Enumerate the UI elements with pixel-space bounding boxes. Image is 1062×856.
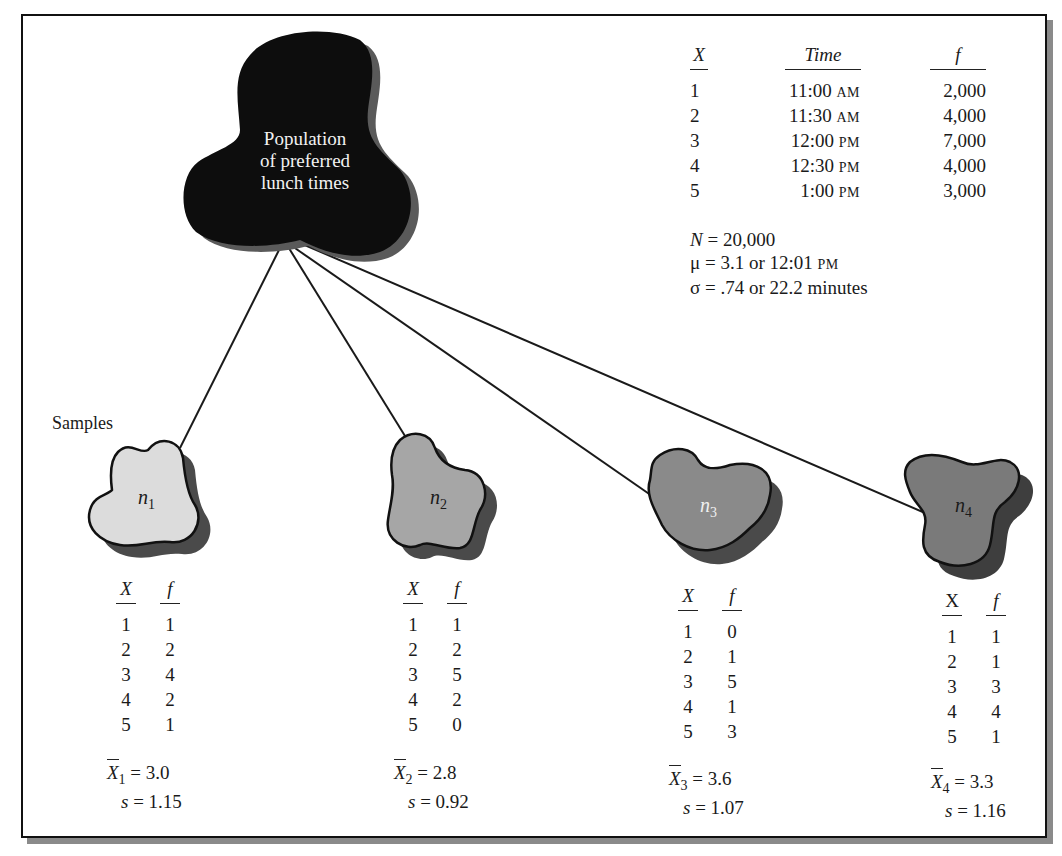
cell-x: 3 bbox=[690, 130, 712, 152]
cell-time: 1:00 PM bbox=[756, 180, 860, 202]
n-letter: n bbox=[955, 494, 965, 516]
population-mean: μ = 3.1 or 12:01 PM bbox=[690, 251, 868, 276]
header-f: f bbox=[986, 590, 1006, 616]
cell-x: 2 bbox=[678, 646, 698, 668]
cell-x: 2 bbox=[690, 105, 712, 127]
cell-x: 3 bbox=[403, 664, 423, 686]
cell-f: 2 bbox=[160, 689, 180, 711]
mu-text: μ = 3.1 or 12:01 bbox=[690, 252, 818, 273]
sd-value: = 1.15 bbox=[128, 791, 181, 812]
time-value: 12:00 bbox=[791, 130, 834, 151]
time-period: PM bbox=[839, 185, 860, 200]
cell-f: 2,000 bbox=[928, 80, 986, 102]
n-subscript: 2 bbox=[440, 497, 447, 512]
cell-x: 5 bbox=[403, 714, 423, 736]
cell-f: 4,000 bbox=[928, 105, 986, 127]
cell-x: 4 bbox=[403, 689, 423, 711]
sample-stats-n1: X1 = 3.0 s = 1.15 bbox=[107, 762, 182, 813]
xbar-symbol: X bbox=[669, 768, 681, 789]
cell-x: 2 bbox=[942, 651, 962, 673]
population-label-line: Population bbox=[248, 128, 362, 150]
time-value: 1:00 bbox=[800, 180, 834, 201]
cell-f: 1 bbox=[986, 651, 1006, 673]
sample-label-n2: n2 bbox=[430, 486, 447, 513]
mean-value: = 3.6 bbox=[688, 768, 732, 789]
cell-time: 11:00 AM bbox=[756, 80, 860, 102]
population-label: Population of preferred lunch times bbox=[248, 128, 362, 194]
time-value: 11:30 bbox=[789, 105, 832, 126]
time-value: 12:30 bbox=[791, 155, 834, 176]
cell-x: 5 bbox=[690, 180, 712, 202]
population-sd: σ = .74 or 22.2 minutes bbox=[690, 276, 868, 299]
cell-f: 0 bbox=[722, 621, 742, 643]
cell-x: 1 bbox=[116, 614, 136, 636]
cell-f: 2 bbox=[447, 689, 467, 711]
mean-value: = 2.8 bbox=[413, 762, 457, 783]
xbar-symbol: X bbox=[394, 762, 406, 783]
cell-f: 0 bbox=[447, 714, 467, 736]
mean-value: = 3.3 bbox=[950, 771, 994, 792]
cell-f: 3 bbox=[722, 721, 742, 743]
sample-label-n3: n3 bbox=[700, 494, 717, 521]
cell-f: 5 bbox=[722, 671, 742, 693]
cell-x: 1 bbox=[690, 80, 712, 102]
cell-f: 2 bbox=[447, 639, 467, 661]
cell-x: 1 bbox=[403, 614, 423, 636]
xbar-symbol: X bbox=[107, 762, 119, 783]
header-x: X bbox=[403, 578, 423, 604]
mu-period: PM bbox=[818, 257, 839, 272]
sample-sd: s = 1.15 bbox=[107, 791, 182, 813]
cell-f: 1 bbox=[986, 726, 1006, 748]
header-f: f bbox=[447, 578, 467, 604]
sample-sd: s = 1.07 bbox=[669, 797, 744, 819]
n-subscript: 1 bbox=[148, 497, 155, 512]
cell-x: 1 bbox=[942, 626, 962, 648]
sample-label-n1: n1 bbox=[138, 486, 155, 513]
header-time: Time bbox=[785, 44, 861, 70]
cell-f: 7,000 bbox=[928, 130, 986, 152]
connector-line-n1 bbox=[180, 242, 283, 448]
cell-f: 4,000 bbox=[928, 155, 986, 177]
cell-x: 3 bbox=[942, 676, 962, 698]
sample-mean: X4 = 3.3 bbox=[931, 771, 1006, 800]
sample-mean: X1 = 3.0 bbox=[107, 762, 182, 791]
header-x: X bbox=[116, 578, 136, 604]
header-x: X bbox=[942, 590, 962, 616]
cell-f: 2 bbox=[160, 639, 180, 661]
time-period: AM bbox=[836, 110, 860, 125]
population-label-line: lunch times bbox=[248, 172, 362, 194]
n-subscript: 4 bbox=[965, 505, 972, 520]
xbar-symbol: X bbox=[931, 771, 943, 792]
cell-time: 12:00 PM bbox=[756, 130, 860, 152]
sample-sd: s = 1.16 bbox=[931, 800, 1006, 822]
sample-label-n4: n4 bbox=[955, 494, 972, 521]
n-letter: n bbox=[700, 494, 710, 516]
cell-f: 5 bbox=[447, 664, 467, 686]
cell-x: 4 bbox=[942, 701, 962, 723]
mean-subscript: 2 bbox=[406, 772, 413, 787]
sd-value: = 1.16 bbox=[952, 800, 1005, 821]
header-f: f bbox=[930, 44, 986, 70]
connector-line-n2 bbox=[287, 245, 405, 436]
mean-subscript: 4 bbox=[943, 781, 950, 796]
sd-value: = 1.07 bbox=[690, 797, 743, 818]
samples-label: Samples bbox=[52, 413, 113, 434]
sample-stats-n4: X4 = 3.3 s = 1.16 bbox=[931, 771, 1006, 822]
cell-x: 5 bbox=[942, 726, 962, 748]
cell-x: 2 bbox=[403, 639, 423, 661]
n-subscript: 3 bbox=[710, 505, 717, 520]
time-period: PM bbox=[839, 135, 860, 150]
time-value: 11:00 bbox=[789, 80, 832, 101]
population-stats: N = 20,000 μ = 3.1 or 12:01 PM σ = .74 o… bbox=[690, 228, 868, 299]
header-f: f bbox=[722, 585, 742, 611]
mean-subscript: 3 bbox=[681, 778, 688, 793]
sample-mean: X3 = 3.6 bbox=[669, 768, 744, 797]
cell-x: 5 bbox=[116, 714, 136, 736]
header-x: X bbox=[678, 585, 698, 611]
cell-f: 3,000 bbox=[928, 180, 986, 202]
sample-stats-n3: X3 = 3.6 s = 1.07 bbox=[669, 768, 744, 819]
cell-f: 1 bbox=[722, 646, 742, 668]
n-letter: n bbox=[430, 486, 440, 508]
n-letter: n bbox=[138, 486, 148, 508]
sd-value: = 0.92 bbox=[415, 791, 468, 812]
